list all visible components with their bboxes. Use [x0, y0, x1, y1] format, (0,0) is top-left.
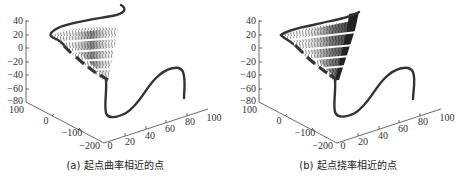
z-tick-label: 40 [246, 15, 256, 26]
y-tick-label: 100 [242, 104, 257, 115]
x-tick-label: 80 [418, 116, 428, 127]
x-tick-label: 0 [108, 140, 113, 151]
y-tick-label: 100 [9, 104, 24, 115]
y-tick-label: −100 [62, 127, 83, 138]
z-tick-label: 40 [13, 15, 23, 26]
y-tick-label: 0 [277, 115, 282, 126]
z-tick-label: 0 [18, 42, 23, 53]
x-tick-label: 20 [358, 136, 368, 147]
plot-a-canvas: 40 20 0 −20 −40 −60 −80 100 0 −100 −200 … [0, 0, 230, 181]
x-tick-label: 40 [378, 130, 388, 141]
z-tick-label: −60 [240, 83, 256, 94]
z-tick-label: −40 [7, 69, 23, 80]
z-tick-label: −20 [240, 56, 256, 67]
space-curve-a [51, 5, 185, 117]
panel-b: 40 20 0 −20 −40 −60 −80 100 0 −100 −200 … [233, 0, 459, 181]
y-tick-label: −200 [79, 140, 100, 151]
z-tick-label: −40 [240, 69, 256, 80]
y-tick-label: −100 [295, 127, 316, 138]
z-tick-label: 20 [13, 29, 23, 40]
caption-b: (b) 起点挠率相近的点 [233, 157, 459, 172]
z-tick-label: −60 [7, 83, 23, 94]
x-tick-label: 60 [165, 123, 175, 134]
caption-a: (a) 起点曲率相近的点 [0, 157, 230, 172]
x-tick-label: 60 [398, 123, 408, 134]
z-tick-label: −20 [7, 56, 23, 67]
similar-points-cone-a [50, 27, 118, 80]
x-tick-label: 80 [185, 116, 195, 127]
panel-a: 40 20 0 −20 −40 −60 −80 100 0 −100 −200 … [0, 0, 230, 181]
z-tick-label: 0 [251, 42, 256, 53]
x-tick-label: 100 [440, 112, 455, 123]
x-tick-label: 20 [125, 136, 135, 147]
x-tick-label: 100 [207, 112, 222, 123]
y-tick-label: 0 [44, 115, 49, 126]
x-tick-label: 0 [341, 140, 346, 151]
z-tick-label: 20 [246, 29, 256, 40]
y-tick-label: −200 [312, 140, 333, 151]
x-tick-label: 40 [145, 130, 155, 141]
plot-b-canvas: 40 20 0 −20 −40 −60 −80 100 0 −100 −200 … [233, 0, 459, 181]
